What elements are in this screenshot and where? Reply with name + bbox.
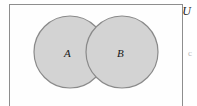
margin-glyph: c [188, 49, 192, 58]
set-b-label: B [117, 48, 124, 59]
venn-circles [0, 0, 197, 106]
set-a-label: A [64, 48, 71, 59]
venn-diagram-figure: U A B c [0, 0, 197, 106]
